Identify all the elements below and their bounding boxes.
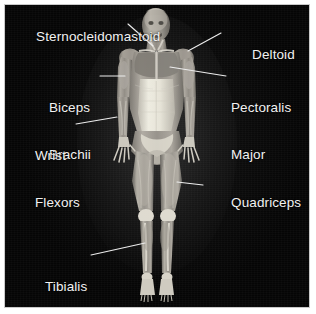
- label-sternocleidomastoid-text: Sternocleidomastoid: [36, 29, 160, 44]
- label-deltoid-text: Deltoid: [252, 47, 295, 62]
- label-biceps-brachii-line1: Biceps: [49, 100, 91, 116]
- label-pectoralis-major: Pectoralis Major: [231, 69, 291, 193]
- label-pectoralis-major-line1: Pectoralis: [231, 100, 291, 116]
- label-wrist-flexors-line2: Flexors: [35, 195, 80, 211]
- label-wrist-flexors-line1: Wrist: [35, 148, 80, 164]
- image-frame: Sternocleidomastoid Deltoid Biceps Brach…: [4, 4, 310, 308]
- label-pectoralis-major-line2: Major: [231, 147, 291, 163]
- label-sternocleidomastoid: Sternocleidomastoid: [13, 13, 160, 60]
- label-wrist-flexors: Wrist Flexors: [35, 117, 80, 241]
- label-tibialis-anterior: Tibialis Anterior: [45, 248, 93, 308]
- label-quadriceps-text: Quadriceps: [231, 195, 301, 210]
- label-quadriceps: Quadriceps: [208, 179, 301, 226]
- anatomy-figure-root: Sternocleidomastoid Deltoid Biceps Brach…: [0, 0, 316, 314]
- label-tibialis-anterior-line1: Tibialis: [45, 279, 93, 295]
